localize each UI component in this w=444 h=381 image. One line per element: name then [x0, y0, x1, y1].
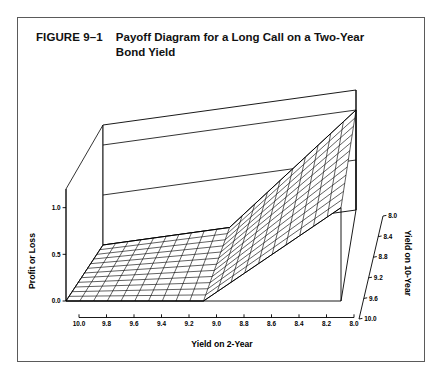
svg-text:9.6: 9.6: [369, 295, 378, 302]
svg-text:8.4: 8.4: [383, 233, 392, 240]
svg-text:9.6: 9.6: [130, 320, 139, 327]
svg-text:9.2: 9.2: [185, 320, 194, 327]
y-axis: 10.09.69.28.88.48.0: [359, 212, 398, 322]
svg-text:9.2: 9.2: [374, 274, 383, 281]
svg-text:0.5: 0.5: [52, 251, 61, 258]
z-axis: 1.00.50.0: [52, 189, 66, 304]
svg-text:9.0: 9.0: [212, 320, 221, 327]
svg-text:8.0: 8.0: [350, 320, 359, 327]
svg-text:10.0: 10.0: [364, 315, 377, 322]
svg-text:9.8: 9.8: [102, 320, 111, 327]
figure-frame: FIGURE 9–1 Payoff Diagram for a Long Cal…: [17, 17, 425, 362]
svg-text:1.0: 1.0: [52, 204, 61, 211]
svg-text:8.6: 8.6: [267, 320, 276, 327]
x-axis: 10.09.89.69.49.29.08.88.68.48.28.0: [73, 314, 359, 327]
svg-text:9.4: 9.4: [157, 320, 166, 327]
surface-plot: 10.09.89.69.49.29.08.88.68.48.28.0 10.09…: [18, 18, 426, 363]
surface-plot-svg: 10.09.89.69.49.29.08.88.68.48.28.0 10.09…: [18, 18, 426, 363]
svg-text:8.2: 8.2: [322, 320, 331, 327]
svg-text:8.8: 8.8: [379, 253, 388, 260]
svg-text:Yield on 2-Year: Yield on 2-Year: [191, 339, 253, 349]
svg-text:8.0: 8.0: [388, 212, 397, 219]
svg-text:10.0: 10.0: [73, 320, 86, 327]
svg-text:8.4: 8.4: [295, 320, 304, 327]
svg-text:Yield on 10-Year: Yield on 10-Year: [403, 230, 413, 297]
svg-text:0.0: 0.0: [52, 297, 61, 304]
svg-text:Profit or Loss: Profit or Loss: [27, 233, 37, 289]
svg-text:8.8: 8.8: [240, 320, 249, 327]
